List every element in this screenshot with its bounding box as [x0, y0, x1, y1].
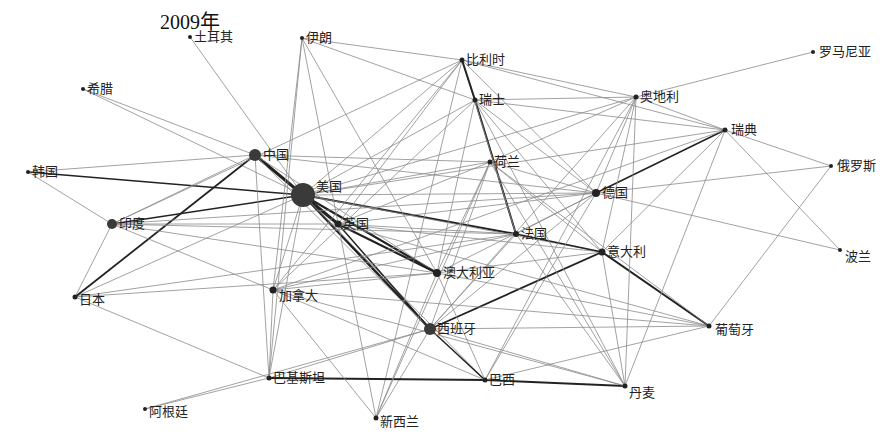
node-brazil [483, 378, 488, 383]
edge-netherlands-australia [437, 162, 490, 273]
node-turkey [188, 35, 192, 39]
node-label-australia: 澳大利亚 [443, 266, 495, 280]
edge-uk-belgium [338, 60, 462, 224]
node-netherlands [488, 160, 493, 165]
node-label-uk: 英国 [343, 217, 369, 231]
edge-pakistan-japan [75, 297, 269, 378]
node-denmark [623, 384, 628, 389]
edge-germany-sweden [596, 130, 725, 193]
node-label-switzerland: 瑞士 [479, 93, 505, 107]
edge-russia-portugal [709, 166, 831, 326]
edge-germany-russia [596, 166, 831, 193]
node-india [107, 219, 117, 229]
node-label-italy: 意大利 [607, 245, 646, 259]
edge-pakistan-canada [269, 290, 273, 378]
edge-germany-spain [430, 193, 596, 329]
node-label-germany: 德国 [602, 186, 628, 200]
edge-switzerland-sweden [475, 100, 725, 130]
node-label-russia: 俄罗斯 [837, 159, 876, 173]
node-poland [838, 248, 842, 252]
edge-usa-austria [303, 97, 636, 195]
node-switzerland [473, 98, 478, 103]
node-label-sweden: 瑞典 [731, 123, 757, 137]
node-france [513, 231, 519, 237]
edge-newzealand-australia [376, 273, 437, 418]
edge-usa-germany [303, 193, 596, 195]
node-label-romania: 罗马尼亚 [819, 45, 871, 59]
edge-iran-australia [302, 38, 437, 273]
node-label-china: 中国 [263, 148, 289, 162]
edge-india-japan [75, 224, 112, 297]
node-label-usa: 美国 [316, 180, 342, 194]
node-pakistan [267, 376, 272, 381]
node-newzealand [374, 416, 379, 421]
node-label-india: 印度 [119, 217, 145, 231]
edge-austria-spain [430, 97, 636, 329]
node-russia [829, 164, 833, 168]
node-romania [811, 50, 815, 54]
edge-italy-portugal [602, 252, 709, 326]
node-austria [634, 95, 639, 100]
edge-usa-turkey [190, 37, 303, 195]
edge-china-korea [28, 155, 255, 172]
node-label-turkey: 土耳其 [194, 30, 233, 44]
node-sweden [723, 128, 728, 133]
edge-switzerland-australia [437, 100, 475, 273]
edge-belgium-newzealand [376, 60, 462, 418]
node-label-austria: 奥地利 [640, 90, 679, 104]
edge-newzealand-canada [273, 290, 376, 418]
node-korea [26, 170, 30, 174]
edge-japan-australia [75, 273, 437, 297]
node-label-argentina: 阿根廷 [149, 405, 188, 419]
node-argentina [143, 407, 147, 411]
edge-spain-argentina [145, 329, 430, 409]
node-label-denmark: 丹麦 [629, 386, 655, 400]
node-label-iran: 伊朗 [306, 31, 332, 45]
node-japan [73, 295, 78, 300]
node-greece [81, 87, 85, 91]
node-label-japan: 日本 [79, 293, 105, 307]
node-label-canada: 加拿大 [279, 289, 318, 303]
node-label-belgium: 比利时 [466, 53, 505, 67]
edge-china-pakistan [255, 155, 269, 378]
edge-spain-newzealand [376, 329, 430, 418]
node-label-greece: 希腊 [87, 82, 113, 96]
nodes-layer [26, 35, 842, 421]
node-uk [335, 221, 342, 228]
node-label-brazil: 巴西 [489, 373, 515, 387]
node-label-pakistan: 巴基斯坦 [273, 371, 325, 385]
node-germany [592, 189, 600, 197]
node-label-newzealand: 新西兰 [380, 415, 419, 429]
node-label-france: 法国 [521, 227, 547, 241]
node-label-portugal: 葡萄牙 [715, 323, 754, 337]
node-italy [599, 249, 606, 256]
node-portugal [707, 324, 712, 329]
node-label-poland: 波兰 [845, 250, 871, 264]
node-canada [270, 287, 277, 294]
edge-belgium-india [112, 60, 462, 224]
node-usa [291, 183, 315, 207]
node-label-netherlands: 荷兰 [494, 155, 520, 169]
edge-sweden-poland [725, 130, 840, 250]
edge-china-japan [75, 155, 255, 297]
edges-layer [28, 37, 840, 418]
edge-portugal-australia [437, 273, 709, 326]
edge-brazil-portugal [485, 326, 709, 380]
edge-china-greece [83, 89, 255, 155]
edge-usa-japan [75, 195, 303, 297]
node-label-korea: 韩国 [32, 165, 58, 179]
edge-usa-belgium [303, 60, 462, 195]
node-china [249, 149, 261, 161]
edge-switzerland-iran [302, 38, 475, 100]
node-label-spain: 西班牙 [437, 322, 476, 336]
node-spain [424, 323, 436, 335]
node-iran [300, 36, 304, 40]
node-australia [433, 269, 441, 277]
node-belgium [460, 58, 465, 63]
edge-india-korea [28, 172, 112, 224]
edge-austria-netherlands [490, 97, 636, 162]
